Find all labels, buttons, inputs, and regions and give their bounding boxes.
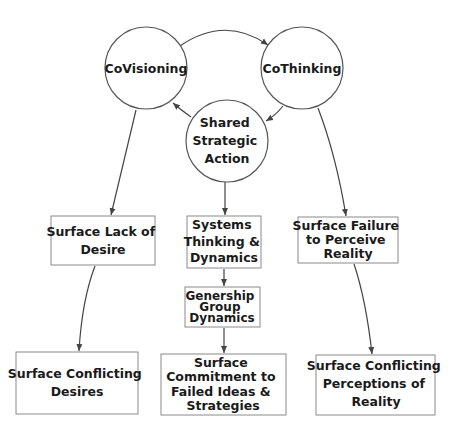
node-surface-conflicting-perceptions: Surface Conflicting Perceptions of Reali… [307, 355, 445, 415]
node-covisioning: CoVisioning [105, 27, 188, 109]
node-surface-conflicting-desires: Surface Conflicting Desires [8, 352, 146, 414]
node-surface-failure-to-perceive-reality: Surface Failure to Perceive Reality [293, 217, 404, 263]
node-cothinking-label: CoThinking [263, 61, 342, 76]
node-genership-group-dynamics: Genership Group Dynamics [185, 287, 260, 327]
node-covisioning-label: CoVisioning [105, 61, 188, 76]
edge-failure-to-perceive-to-conflicting-perceptions [354, 264, 372, 354]
edge-cothinking-to-failure-to-perceive [318, 108, 346, 216]
node-systems-thinking-dynamics-label: Systems Thinking & Dynamics [184, 217, 265, 265]
node-surface-commitment-failed-ideas: Surface Commitment to Failed Ideas & Str… [161, 354, 286, 415]
node-shared-strategic-action: Shared Strategic Action [186, 100, 268, 182]
node-surface-lack-of-desire: Surface Lack of Desire [46, 216, 159, 265]
edge-lack-of-desire-to-conflicting-desires [79, 266, 95, 351]
node-cothinking: CoThinking [261, 27, 343, 109]
edge-covisioning-to-cothinking [180, 30, 268, 46]
diagram-canvas: CoVisioning CoThinking Shared Strategic … [0, 0, 457, 437]
edge-cothinking-to-shared-action [266, 106, 283, 121]
edge-shared-action-to-covisioning [173, 103, 191, 117]
node-systems-thinking-dynamics: Systems Thinking & Dynamics [184, 216, 265, 268]
edge-covisioning-to-lack-of-desire [111, 110, 136, 215]
